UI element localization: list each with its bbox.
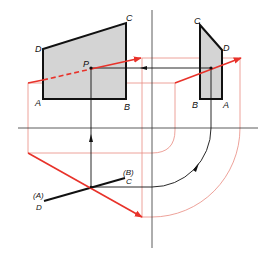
front-label-d: D (35, 44, 42, 54)
side-label-c: C (194, 16, 201, 26)
side-label-d: D (223, 43, 230, 53)
arc-arrow-icon (193, 163, 199, 172)
top-label-b-paren: (B) (123, 168, 134, 177)
red-line-hidden (28, 80, 43, 83)
front-label-a: A (34, 98, 41, 108)
point-p-side (209, 66, 212, 69)
top-label-d: D (36, 203, 42, 212)
top-label-c: C (126, 177, 132, 186)
arrow-left-icon (140, 66, 147, 70)
point-p-front (89, 66, 92, 69)
projection-diagram: D C A B P C D B A (A) D (B) C (0, 0, 267, 258)
top-label-a-paren: (A) (33, 191, 44, 200)
front-label-b: B (124, 102, 130, 112)
front-label-c: C (126, 13, 133, 23)
red-line-top (28, 153, 142, 217)
top-view-edge (44, 178, 125, 201)
point-p-top (90, 186, 93, 189)
front-label-p: P (83, 59, 89, 69)
arrow-up-icon (89, 134, 93, 142)
side-label-a: A (222, 100, 229, 110)
side-label-b: B (192, 100, 198, 110)
